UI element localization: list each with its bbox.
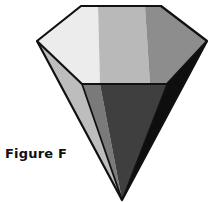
gem-figure (0, 0, 216, 202)
figure-label: Figure F (5, 146, 67, 161)
top-face-center (98, 6, 150, 84)
